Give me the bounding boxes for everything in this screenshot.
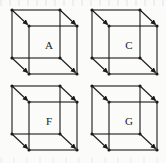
cube-g-depth-arrows (92, 86, 156, 149)
cube-g-svg: G (88, 82, 166, 160)
cube-g-label: G (125, 115, 133, 127)
cube-diagram-c: C (88, 6, 166, 84)
cube-f-svg: F (8, 82, 91, 160)
cube-c-svg: C (88, 6, 166, 84)
cube-a-svg: A (8, 6, 91, 84)
cube-a-label: A (45, 39, 53, 51)
cube-figure-panel: A (0, 0, 166, 163)
cube-a-depth-arrows (12, 10, 76, 73)
cube-diagram-f: F (8, 82, 91, 160)
cube-diagram-a: A (8, 6, 91, 84)
cube-c-depth-arrows (92, 10, 156, 73)
cube-c-label: C (125, 39, 132, 51)
cube-f-label: F (46, 115, 52, 127)
cube-diagram-g: G (88, 82, 166, 160)
cube-f-depth-arrows (12, 86, 76, 149)
